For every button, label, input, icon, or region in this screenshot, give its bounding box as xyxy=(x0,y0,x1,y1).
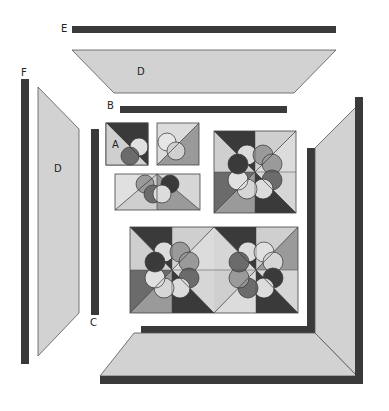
quarter-block-a xyxy=(106,123,148,165)
flower-block xyxy=(214,131,296,213)
border-strip-b xyxy=(120,106,287,113)
row-block-2 xyxy=(214,227,298,313)
joined-trapezoid-bottom xyxy=(100,333,357,376)
border-strip-e xyxy=(72,26,336,33)
joined-outer-strip-right xyxy=(355,97,363,384)
half-block xyxy=(115,174,200,210)
quarter-block-2 xyxy=(157,123,199,165)
row-block-1 xyxy=(130,227,214,313)
border-strip-f xyxy=(21,79,29,364)
joined-inner-strip-bottom xyxy=(141,326,317,333)
quilt-assembly-diagram xyxy=(0,0,389,411)
joined-trapezoid-right xyxy=(315,106,357,376)
trapezoid-d-top xyxy=(72,50,336,93)
border-strip-c xyxy=(91,129,99,315)
joined-inner-strip-right xyxy=(307,148,315,333)
block-row xyxy=(130,227,298,313)
joined-outer-strip-bottom xyxy=(100,376,363,384)
trapezoid-d-left xyxy=(38,87,79,356)
